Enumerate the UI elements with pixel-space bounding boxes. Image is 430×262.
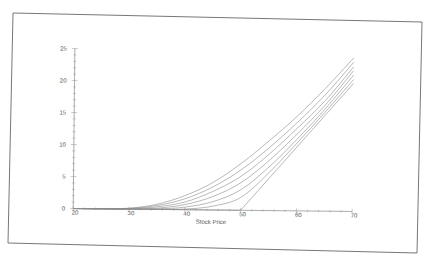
- option-value-chart: 0510152025 203040506070 Stock Price: [0, 0, 430, 262]
- x-tick-label: 70: [351, 212, 358, 218]
- x-tick-label: 50: [239, 211, 246, 217]
- y-tick-label: 15: [59, 109, 66, 115]
- y-tick-label: 20: [60, 77, 67, 83]
- x-tick-label: 20: [72, 210, 79, 216]
- x-tick-label: 60: [295, 212, 302, 218]
- page-frame: [8, 13, 422, 253]
- x-axis-title: Stock Price: [196, 219, 227, 225]
- x-tick-label: 40: [183, 211, 190, 217]
- y-tick-label: 10: [59, 141, 66, 147]
- y-tick-label: 25: [60, 45, 67, 51]
- x-tick-label: 30: [128, 210, 135, 216]
